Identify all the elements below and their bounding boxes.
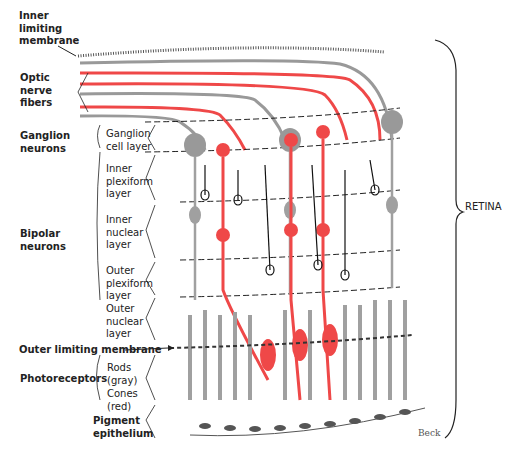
label-ganglion-cell-layer: Ganglion cell layer (106, 128, 151, 153)
label-inner-plexiform-layer: Inner plexiform layer (106, 163, 153, 201)
label-ganglion-neurons: Ganglion neurons (20, 130, 70, 155)
label-rods: Rods (gray) (107, 362, 137, 387)
label-outer-plexiform-layer: Outer plexiform layer (106, 265, 153, 303)
label-inner-nuclear-layer: Inner nuclear layer (106, 214, 143, 252)
label-retina: RETINA (465, 201, 502, 214)
inner-limiting-membrane (78, 48, 385, 56)
artist-signature: Beck (418, 428, 440, 438)
label-cones: Cones (red) (107, 388, 138, 413)
label-photoreceptors: Photoreceptors (20, 373, 107, 386)
label-inner-limiting-membrane: Inner limiting membrane (19, 10, 79, 48)
label-pigment-epithelium: Pigment epithelium (93, 415, 153, 440)
label-outer-nuclear-layer: Outer nuclear layer (106, 303, 143, 341)
retina-bracket (435, 40, 463, 438)
retina-diagram (0, 0, 522, 454)
label-optic-nerve-fibers: Optic nerve fibers (20, 72, 52, 110)
label-outer-limiting-membrane: Outer limiting membrane (19, 344, 162, 357)
label-bipolar-neurons: Bipolar neurons (20, 228, 66, 253)
